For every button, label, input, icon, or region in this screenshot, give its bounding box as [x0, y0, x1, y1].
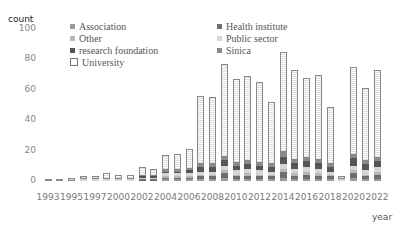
x-axis-title: year — [372, 212, 392, 222]
legend-label: Association — [79, 21, 126, 32]
bar-segment-public-sector — [127, 179, 134, 181]
bar-segment-university — [327, 107, 334, 165]
legend-item-research-foundation: research foundation — [70, 44, 158, 56]
legend-item-university: University — [70, 56, 158, 68]
x-tick-label: 2022 — [366, 192, 389, 202]
bar-segment-university — [221, 64, 228, 157]
bar-segment-university — [56, 179, 63, 181]
bar-segment-association — [315, 179, 322, 181]
bar-2006 — [186, 149, 193, 181]
legend-swatch-icon — [70, 36, 75, 41]
legend-swatch-icon — [217, 24, 222, 29]
bar-segment-university — [362, 88, 369, 161]
x-tick-label: 1997 — [84, 192, 107, 202]
bar-1996 — [80, 176, 87, 181]
bar-segment-university — [303, 78, 310, 159]
legend-item-public-sector: Public sector — [217, 32, 287, 44]
bar-segment-university — [68, 178, 75, 181]
x-tick-label: 2014 — [272, 192, 295, 202]
bar-segment-public-sector — [103, 179, 110, 181]
x-tick-label: 2012 — [248, 192, 271, 202]
legend-swatch-icon — [70, 24, 75, 29]
bar-2010 — [233, 79, 240, 181]
bar-segment-university — [280, 52, 287, 152]
bar-segment-association — [233, 179, 240, 181]
x-tick-label: 2004 — [154, 192, 177, 202]
bar-segment-university — [268, 102, 275, 164]
legend-item-association: Association — [70, 20, 158, 32]
bar-segment-association — [209, 179, 216, 181]
x-tick-label: 2000 — [107, 192, 130, 202]
bar-segment-association — [291, 179, 298, 181]
bar-segment-university — [162, 155, 169, 170]
bar-segment-association — [174, 179, 181, 181]
legend-item-sinica: Sinica — [217, 44, 287, 56]
x-tick-label: 2010 — [225, 192, 248, 202]
legend-column-1: AssociationOtherresearch foundationUnive… — [70, 20, 158, 68]
x-tick-label: 2016 — [295, 192, 318, 202]
bar-2004 — [162, 155, 169, 181]
legend-label: Health institute — [226, 21, 287, 32]
bar-segment-association — [256, 179, 263, 181]
bar-segment-association — [221, 178, 228, 181]
bar-segment-public-sector — [115, 179, 122, 181]
bar-2000 — [115, 175, 122, 181]
x-tick-label: 2008 — [201, 192, 224, 202]
bar-2009 — [221, 64, 228, 181]
bar-segment-association — [374, 179, 381, 181]
x-tick-label: 2006 — [178, 192, 201, 202]
bar-2020 — [350, 67, 357, 181]
bar-2005 — [174, 154, 181, 181]
legend-item-other: Other — [70, 32, 158, 44]
bar-segment-association — [186, 179, 193, 181]
bar-segment-university — [174, 154, 181, 171]
bar-2001 — [127, 175, 134, 181]
bar-segment-public-sector — [338, 179, 345, 181]
legend-column-2: Health institutePublic sectorSinica — [217, 20, 287, 56]
bar-1998 — [103, 173, 110, 181]
bar-segment-research-foundation — [350, 158, 357, 166]
x-tick-label: 2002 — [131, 192, 154, 202]
legend-label: Other — [79, 33, 102, 44]
y-tick-label: 40 — [10, 114, 36, 124]
legend-swatch-icon — [70, 58, 78, 66]
bar-2017 — [315, 75, 322, 181]
legend-label: University — [82, 57, 124, 68]
bar-segment-association — [303, 179, 310, 181]
bar-segment-public-sector — [92, 179, 99, 181]
bar-segment-university — [315, 75, 322, 160]
bar-segment-university — [374, 70, 381, 158]
y-tick-label: 0 — [10, 175, 36, 185]
bar-segment-association — [197, 179, 204, 181]
bar-2013 — [268, 102, 275, 181]
bar-segment-university — [209, 97, 216, 164]
bar-1993 — [45, 179, 52, 181]
bar-segment-university — [256, 82, 263, 163]
x-tick-label: 1995 — [60, 192, 83, 202]
bar-segment-university — [244, 76, 251, 161]
bar-segment-university — [186, 149, 193, 169]
bar-2012 — [256, 82, 263, 181]
bar-2002 — [139, 167, 146, 181]
legend-swatch-icon — [217, 48, 222, 53]
bar-segment-university — [291, 70, 298, 160]
bar-segment-university — [45, 179, 52, 181]
bar-segment-university — [150, 169, 157, 177]
bar-segment-university — [350, 67, 357, 155]
y-tick-label: 100 — [10, 23, 36, 33]
bar-2003 — [150, 169, 157, 181]
legend-label: Sinica — [226, 45, 251, 56]
legend-swatch-icon — [70, 48, 75, 53]
bar-2019 — [338, 176, 345, 181]
bar-2022 — [374, 70, 381, 181]
bar-2021 — [362, 88, 369, 181]
bar-segment-health-institute — [150, 179, 157, 181]
legend-item-health-institute: Health institute — [217, 20, 287, 32]
bar-segment-association — [280, 178, 287, 181]
y-tick-label: 80 — [10, 53, 36, 63]
bar-2016 — [303, 78, 310, 181]
bar-segment-public-sector — [80, 179, 87, 181]
bar-segment-research-foundation — [280, 157, 287, 165]
x-tick-label: 2018 — [319, 192, 342, 202]
bar-segment-association — [362, 179, 369, 181]
